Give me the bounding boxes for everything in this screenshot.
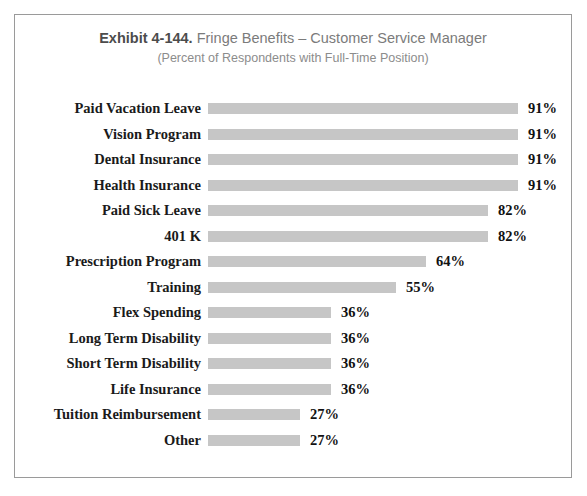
bar-track: 27% <box>208 402 587 428</box>
exhibit-figure: Exhibit 4-144. Fringe Benefits – Custome… <box>0 0 587 496</box>
bar-row: Paid Sick Leave82% <box>0 198 587 224</box>
bar-track: 91% <box>208 122 587 148</box>
bar-value-label: 91% <box>528 173 557 199</box>
bar-category-label: Dental Insurance <box>20 147 201 173</box>
bar-value-label: 91% <box>528 147 557 173</box>
bar-track: 91% <box>208 173 587 199</box>
chart-subtitle: (Percent of Respondents with Full-Time P… <box>15 49 571 67</box>
bar-row: Life Insurance36% <box>0 377 587 403</box>
bar-row: Dental Insurance91% <box>0 147 587 173</box>
bar-row: Training55% <box>0 275 587 301</box>
bar-value-label: 36% <box>341 326 370 352</box>
bar-row: Prescription Program64% <box>0 249 587 275</box>
bar <box>208 154 518 165</box>
bar-row: Vision Program91% <box>0 122 587 148</box>
bar <box>208 307 331 318</box>
bar <box>208 231 488 242</box>
bar <box>208 358 331 369</box>
bar-track: 55% <box>208 275 587 301</box>
bar <box>208 180 518 191</box>
bar-category-label: Flex Spending <box>20 300 201 326</box>
chart-title-text: Fringe Benefits – Customer Service Manag… <box>197 30 487 46</box>
bar-row: Paid Vacation Leave91% <box>0 96 587 122</box>
bar-row: Other27% <box>0 428 587 454</box>
bar-track: 36% <box>208 351 587 377</box>
bar-row: Flex Spending36% <box>0 300 587 326</box>
bar-value-label: 36% <box>341 351 370 377</box>
bar-track: 36% <box>208 326 587 352</box>
bar-category-label: Paid Sick Leave <box>20 198 201 224</box>
bar <box>208 384 331 395</box>
bar-track: 82% <box>208 198 587 224</box>
bar-category-label: Tuition Reimbursement <box>20 402 201 428</box>
bar-category-label: Vision Program <box>20 122 201 148</box>
bar-row: Health Insurance91% <box>0 173 587 199</box>
bar-value-label: 27% <box>310 402 339 428</box>
bar-value-label: 64% <box>436 249 465 275</box>
bar-row: Tuition Reimbursement27% <box>0 402 587 428</box>
exhibit-number: Exhibit 4-144. <box>99 30 192 46</box>
bar-category-label: Prescription Program <box>20 249 201 275</box>
bar-value-label: 82% <box>498 198 527 224</box>
bar <box>208 256 426 267</box>
bar-track: 91% <box>208 147 587 173</box>
bar-track: 91% <box>208 96 587 122</box>
bar <box>208 409 300 420</box>
bar-value-label: 36% <box>341 300 370 326</box>
bar-row: 401 K82% <box>0 224 587 250</box>
bar-category-label: Health Insurance <box>20 173 201 199</box>
bar-row: Long Term Disability36% <box>0 326 587 352</box>
bar-category-label: Short Term Disability <box>20 351 201 377</box>
bar-row: Short Term Disability36% <box>0 351 587 377</box>
bar-track: 27% <box>208 428 587 454</box>
bar-category-label: Other <box>20 428 201 454</box>
title-block: Exhibit 4-144. Fringe Benefits – Custome… <box>15 28 571 67</box>
bar-category-label: Training <box>20 275 201 301</box>
bar <box>208 282 396 293</box>
bar <box>208 205 488 216</box>
bar-track: 82% <box>208 224 587 250</box>
bar-value-label: 36% <box>341 377 370 403</box>
bar-track: 36% <box>208 377 587 403</box>
bar-category-label: Life Insurance <box>20 377 201 403</box>
bar-track: 64% <box>208 249 587 275</box>
bar <box>208 103 518 114</box>
bar-category-label: Long Term Disability <box>20 326 201 352</box>
bar <box>208 435 300 446</box>
bar-value-label: 82% <box>498 224 527 250</box>
bar <box>208 333 331 344</box>
bar-value-label: 91% <box>528 122 557 148</box>
bar-value-label: 91% <box>528 96 557 122</box>
bar-value-label: 55% <box>406 275 435 301</box>
bar-category-label: 401 K <box>20 224 201 250</box>
bar <box>208 129 518 140</box>
bar-value-label: 27% <box>310 428 339 454</box>
page-title: Exhibit 4-144. Fringe Benefits – Custome… <box>15 28 571 48</box>
bar-chart-plot-area: Paid Vacation Leave91%Vision Program91%D… <box>0 96 587 456</box>
bar-track: 36% <box>208 300 587 326</box>
bar-category-label: Paid Vacation Leave <box>20 96 201 122</box>
